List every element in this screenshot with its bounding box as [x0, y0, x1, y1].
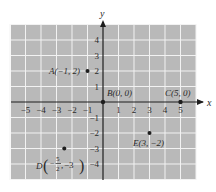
x-tick-label: −5 [21, 105, 31, 115]
y-tick-label: 2 [95, 66, 100, 76]
x-tick-label: −3 [52, 105, 62, 115]
x-tick-label: 5 [178, 105, 183, 115]
y-tick-label: 4 [95, 35, 100, 45]
x-tick-label: 1 [116, 105, 121, 115]
label-d-prefix: D [35, 161, 43, 171]
x-axis-arrow-icon [197, 99, 204, 105]
x-tick-label: 3 [147, 105, 152, 115]
label-b: B(0, 0) [107, 88, 132, 98]
y-tick-label: −2 [89, 128, 99, 138]
x-axis-label: x [206, 97, 212, 108]
point-e [148, 131, 152, 135]
y-axis-label: y [99, 8, 105, 19]
x-tick-label: −4 [36, 105, 46, 115]
y-tick-label: −3 [89, 144, 99, 154]
label-c: C(5, 0) [165, 88, 191, 98]
label-d-paren-open: ( [43, 157, 48, 175]
label-a: A(−1, 2) [48, 66, 80, 76]
label-d-frac-num: 5 [56, 155, 60, 163]
x-tick-label: −2 [67, 105, 77, 115]
y-tick-label: 1 [95, 82, 100, 92]
label-d-comma: , [61, 160, 63, 170]
label-d-frac-den: 2 [56, 165, 60, 173]
y-axis-arrow-icon [100, 20, 106, 27]
y-tick-label: −4 [89, 159, 99, 169]
label-e: E(3, −2) [132, 138, 164, 148]
label-d-minus: − [50, 159, 55, 168]
x-tick-label: 2 [132, 105, 137, 115]
point-a [86, 69, 90, 73]
label-d-paren-close: ) [79, 157, 84, 175]
coordinate-plane: x y −5−4−3−2−112345 4321−1−2−3−4 A(−1, 2… [0, 0, 216, 192]
point-c [178, 100, 182, 104]
y-tick-label: 3 [95, 51, 100, 61]
y-tick-label: −1 [89, 113, 99, 123]
label-d-y: −3 [64, 160, 74, 170]
point-d [62, 147, 66, 151]
point-b [101, 100, 105, 104]
x-tick-label: 4 [163, 105, 168, 115]
